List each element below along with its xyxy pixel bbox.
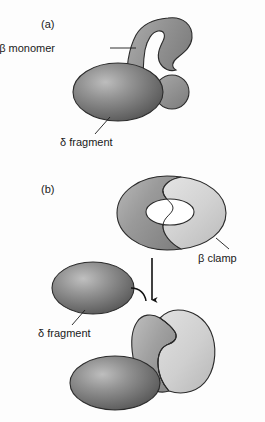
- delta-fragment-label-a: δ fragment: [60, 136, 113, 148]
- beta-clamp-ring: [117, 176, 226, 250]
- protein-clamp-diagram: (a) β monomer δ fragment (b): [0, 0, 265, 422]
- figure-root: (a) β monomer δ fragment (b): [0, 0, 265, 422]
- beta-monomer-label: β monomer: [0, 42, 55, 54]
- delta-fragment-ellipse: [73, 63, 163, 121]
- panel-a-tag: (a): [41, 18, 54, 30]
- delta-fragment-ellipse-bound: [70, 356, 160, 410]
- beta-clamp-label: β clamp: [198, 252, 237, 264]
- delta-fragment-label-b: δ fragment: [38, 327, 91, 339]
- delta-fragment-ellipse-free: [52, 262, 134, 314]
- panel-b-tag: (b): [41, 183, 54, 195]
